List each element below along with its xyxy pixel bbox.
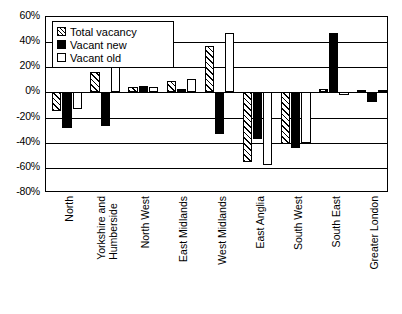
x-axis-tick-label-line: South East (331, 196, 343, 247)
bar (128, 87, 137, 92)
bar (52, 92, 61, 111)
legend-label: Vacant new (70, 39, 127, 51)
legend-item-total-vacancy: Total vacancy (57, 25, 169, 38)
y-axis-tick-label: 60% (0, 10, 40, 21)
x-axis-tick-label-line: East Anglia (255, 196, 267, 249)
y-axis-tick-label: -80% (0, 186, 40, 197)
bar (243, 92, 252, 161)
y-axis-tick-label: -60% (0, 161, 40, 172)
bar (101, 92, 110, 126)
bar (281, 92, 290, 144)
bar (187, 79, 196, 93)
x-axis-tick-label: North West (140, 196, 152, 248)
x-axis-category-labels: NorthYorkshire andHumbersideNorth WestEa… (45, 196, 388, 314)
bar (167, 81, 176, 92)
bar (378, 90, 387, 93)
hatched-swatch-icon (57, 27, 66, 36)
x-axis-tick-label: East Midlands (178, 196, 190, 262)
x-axis-tick-label: South West (293, 196, 305, 250)
white-swatch-icon (57, 53, 66, 62)
bar (139, 86, 148, 92)
bar (149, 87, 158, 92)
bar (357, 90, 366, 93)
legend-item-vacant-new: Vacant new (57, 38, 169, 51)
bar (367, 92, 376, 102)
x-axis-tick-label-line: Humberside (108, 196, 120, 260)
y-axis-tick-label: 40% (0, 35, 40, 46)
bar (73, 92, 82, 108)
bar (319, 89, 328, 93)
bar-chart: 60%40%20%0%-20%-40%-60%-80% Total vacanc… (0, 0, 402, 314)
bar (90, 72, 99, 92)
x-axis-tick-label-line: South West (293, 196, 305, 250)
x-axis-tick-label-line: East Midlands (178, 196, 190, 262)
x-axis-tick-label: West Midlands (217, 196, 229, 265)
x-axis-tick-label: East Anglia (255, 196, 267, 249)
y-axis-tick-label: 0% (0, 85, 40, 96)
black-swatch-icon (57, 40, 66, 49)
x-axis-tick-label: Yorkshire andHumberside (96, 196, 119, 260)
legend-item-vacant-old: Vacant old (57, 51, 169, 64)
x-axis-tick-label-line: West Midlands (217, 196, 229, 265)
bar (263, 92, 272, 165)
bar (253, 92, 262, 139)
bar (301, 92, 310, 142)
bar (215, 92, 224, 133)
gridline (46, 168, 387, 169)
bar (329, 33, 338, 92)
legend-label: Vacant old (70, 52, 121, 64)
bar (111, 65, 120, 93)
bar (291, 92, 300, 147)
bar (225, 33, 234, 92)
x-axis-tick-label-line: Yorkshire and (96, 196, 108, 260)
x-axis-tick-label: South East (331, 196, 343, 247)
x-axis-tick-label-line: North West (140, 196, 152, 248)
bar (62, 92, 71, 127)
gridline (46, 143, 387, 144)
x-axis-tick-label-line: North (64, 196, 76, 222)
bar (339, 92, 348, 95)
chart-legend: Total vacancy Vacant new Vacant old (52, 21, 174, 68)
bar (177, 89, 186, 93)
y-axis-tick-label: -20% (0, 111, 40, 122)
y-axis-tick-label: 20% (0, 60, 40, 71)
legend-label: Total vacancy (70, 26, 137, 38)
x-axis-tick-label: North (64, 196, 76, 222)
x-axis-tick-label: Greater London (369, 196, 381, 270)
bar (205, 46, 214, 93)
x-axis-tick-label-line: Greater London (369, 196, 381, 270)
y-axis-tick-label: -40% (0, 136, 40, 147)
